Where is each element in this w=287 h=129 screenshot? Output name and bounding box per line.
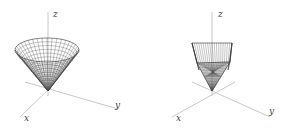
x-axis-label: x [24, 113, 29, 123]
y-axis [25, 82, 118, 109]
right-axes [172, 12, 270, 117]
y-axis-label: y [114, 100, 121, 110]
figure-canvas: z y x z y x [0, 0, 287, 129]
x-axis-label: x [176, 113, 181, 123]
cone-wireframe [15, 38, 79, 91]
z-axis-label: z [52, 9, 58, 19]
left-figure: z y x [15, 9, 121, 123]
right-figure: z y x [172, 9, 275, 123]
z-axis-label: z [217, 9, 223, 19]
y-axis-label: y [268, 106, 275, 116]
